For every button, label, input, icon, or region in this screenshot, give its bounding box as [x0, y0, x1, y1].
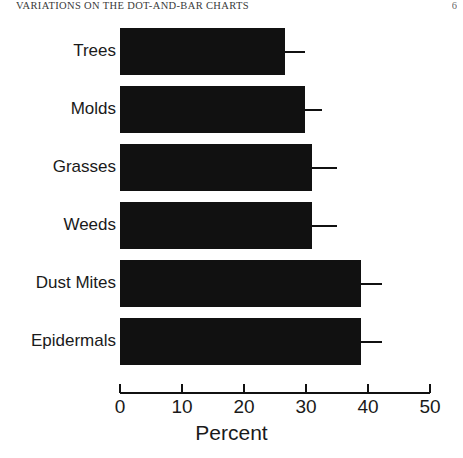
category-label-epidermals: Epidermals: [0, 331, 116, 351]
x-tick-50: [429, 384, 431, 393]
category-label-trees: Trees: [0, 41, 116, 61]
bar-weeds: [120, 202, 312, 249]
error-bar-trees: [285, 51, 305, 53]
category-label-dust-mites: Dust Mites: [0, 273, 116, 293]
category-label-weeds: Weeds: [0, 215, 116, 235]
category-label-molds: Molds: [0, 99, 116, 119]
x-tick-label-50: 50: [419, 396, 440, 418]
x-axis-line: [120, 392, 430, 394]
bar-dust-mites: [120, 260, 361, 307]
bar-trees: [120, 28, 285, 75]
category-label-grasses: Grasses: [0, 157, 116, 177]
error-bar-weeds: [312, 225, 337, 227]
error-bar-molds: [305, 109, 322, 111]
bar-molds: [120, 86, 305, 133]
bar-epidermals: [120, 318, 361, 365]
error-bar-grasses: [312, 167, 337, 169]
bar-row: [120, 28, 430, 75]
x-tick-30: [305, 384, 307, 393]
bar-row: [120, 202, 430, 249]
x-axis-title: Percent: [0, 421, 463, 445]
bar-row: [120, 86, 430, 133]
bar-row: [120, 318, 430, 365]
x-tick-0: [119, 384, 121, 393]
x-tick-label-10: 10: [171, 396, 192, 418]
error-bar-epidermals: [361, 341, 382, 343]
x-tick-label-30: 30: [295, 396, 316, 418]
error-bar-dust-mites: [361, 283, 382, 285]
x-tick-label-0: 0: [115, 396, 126, 418]
x-tick-10: [181, 384, 183, 393]
x-tick-label-40: 40: [357, 396, 378, 418]
bar-row: [120, 260, 430, 307]
bar-row: [120, 144, 430, 191]
x-tick-label-20: 20: [233, 396, 254, 418]
x-tick-20: [243, 384, 245, 393]
plot-area: [120, 28, 430, 388]
bar-grasses: [120, 144, 312, 191]
x-tick-40: [367, 384, 369, 393]
bar-chart: 01020304050 Percent TreesMoldsGrassesWee…: [0, 0, 463, 458]
